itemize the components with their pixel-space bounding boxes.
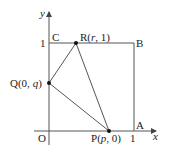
y-axis-label: y [39, 7, 45, 19]
origin-label: O [38, 132, 46, 144]
vertex-B-label: B [136, 37, 143, 49]
x-tick-1: 1 [130, 132, 136, 144]
vertex-A-label: A [136, 119, 144, 131]
point-R-label: R(r, 1) [80, 31, 110, 44]
y-tick-1: 1 [40, 37, 46, 49]
point-R [74, 41, 78, 45]
vertex-C-label: C [52, 31, 59, 43]
diagram-canvas: y x O 1 1 C B A R(r, 1) Q(0, q) P(p, 0) [0, 0, 171, 156]
point-Q-label: Q(0, q) [10, 77, 42, 90]
segment-QR [49, 43, 76, 83]
point-P-label: P(p, 0) [91, 132, 121, 145]
x-axis-label: x [152, 130, 158, 142]
point-Q [47, 81, 51, 85]
